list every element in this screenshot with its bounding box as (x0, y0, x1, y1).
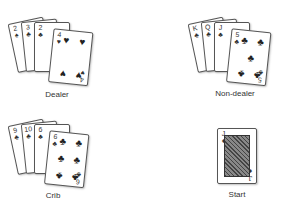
card: J♦ J♦ (217, 128, 257, 184)
non-dealer-label: Non-dealer (195, 89, 275, 98)
crib-label: Crib (13, 191, 93, 200)
start-label: Start (197, 190, 277, 199)
dealer-hand: 2♠ 3♣ 2♣ 4♥ ♥ ♥ ♥ ♥ 4♥ Dealer (0, 0, 140, 105)
dealer-label: Dealer (17, 90, 97, 99)
card: 6♣ ♣ ♣ ♣ ♣ ♣ ♣ 6♣ (44, 130, 89, 188)
card: 5♣ ♣ ♣ ♣ ♣ ♣ 5♣ (226, 28, 271, 86)
crib-hand: 9♣ 10♣ 6♣ 6♣ ♣ ♣ ♣ ♣ ♣ ♣ 6♣ Crib (0, 105, 110, 210)
non-dealer-hand: K♣ Q♣ J♣ 5♣ ♣ ♣ ♣ ♣ ♣ 5♣ Non-dealer (180, 0, 283, 105)
start-card: J♦ J♦ Start (195, 115, 283, 210)
card: 4♥ ♥ ♥ ♥ ♥ 4♥ (48, 28, 93, 86)
